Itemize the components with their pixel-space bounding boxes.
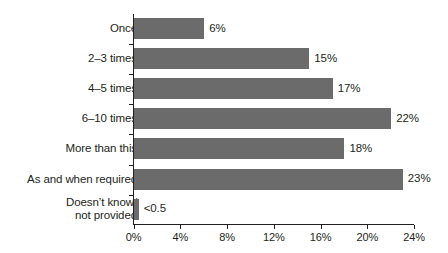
category-label-line: Doesn’t know/ [66,196,137,209]
bar [134,48,309,69]
y-axis-tick [129,104,133,105]
x-axis-tick [180,225,181,229]
plot-area: 0%4%8%12%16%20%24% Once2–3 times4–5 time… [0,0,448,253]
y-axis-tick [129,134,133,135]
x-axis-tick-label: 12% [263,231,285,243]
x-axis-tick-label: 0% [126,231,142,243]
x-axis-tick [134,225,135,229]
bar-value-label: 15% [314,52,337,64]
x-axis-tick [414,225,415,229]
x-axis-tick [367,225,368,229]
category-label: More than this [66,142,137,155]
bar [134,108,391,129]
y-axis-tick [129,74,133,75]
x-axis-tick [227,225,228,229]
x-axis-tick [321,225,322,229]
bar [134,78,333,99]
y-axis-tick [129,165,133,166]
category-label-line: not provided [66,209,137,222]
bar [134,18,204,39]
bar [134,169,403,190]
bar-value-label: 22% [396,112,419,124]
category-label: Doesn’t know/not provided [66,196,137,221]
x-axis-tick-label: 4% [172,231,188,243]
x-axis-tick-label: 16% [310,231,332,243]
category-label: 6–10 times [82,112,137,125]
bar-chart: 0%4%8%12%16%20%24% Once2–3 times4–5 time… [0,0,448,253]
y-axis-tick [129,44,133,45]
x-axis-tick-label: 8% [219,231,235,243]
x-axis-tick [274,225,275,229]
bar-value-label: 23% [408,172,431,184]
bar-value-label: 17% [338,82,361,94]
bar-value-label: <0.5 [144,202,166,214]
category-label: 4–5 times [88,82,137,95]
category-label: As and when required [27,173,137,186]
category-label: 2–3 times [88,52,137,65]
bar-value-label: 6% [209,22,225,34]
bar [134,138,344,159]
bar-value-label: 18% [349,142,372,154]
category-label: Once [110,22,137,35]
x-axis-tick-label: 20% [356,231,378,243]
x-axis-tick-label: 24% [403,231,425,243]
bar [134,199,139,220]
